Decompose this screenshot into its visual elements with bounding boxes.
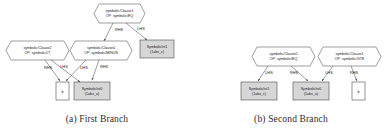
node-label-line2: (1abs_c) xyxy=(150,50,164,54)
node-label-line1: symbolic/Clause1 xyxy=(335,52,363,56)
node-label-line2: (1abs_a) xyxy=(304,92,318,96)
node-symbolic-clause0[interactable]: symbolic/Clause0 OP: symbolic/MINUS xyxy=(70,41,132,60)
node-symbolic-clause2[interactable]: symbolic/Clause2 OP: symbolic/LT xyxy=(6,41,69,60)
panel-first-branch: RHS LHS RHS LHS LHS RHS symbolic/Clause1… xyxy=(0,0,194,133)
edge-clause0-b xyxy=(66,60,86,81)
node-label-line1: symbolic/Clause2 xyxy=(23,46,51,50)
edge-label-lhs-int0-c2: LHS xyxy=(60,64,68,69)
edge-group xyxy=(258,66,357,81)
node-variable-b[interactable]: b xyxy=(56,82,69,100)
node-label-line1: SymbolicInt0 xyxy=(82,87,103,91)
panel-second-branch: LHS RHS LHS RHS symbolic/Clause0 OP: sym… xyxy=(194,0,388,133)
edge-label-lhs-int0: LHS xyxy=(325,70,333,75)
node-label-line1: SymbolicInt1 xyxy=(147,45,168,49)
node-symbolic-clause1[interactable]: symbolic/Clause1 OP: symbolic/GTE xyxy=(318,47,381,66)
edge-clause0-int0 xyxy=(92,60,99,80)
node-label-line1: b xyxy=(358,90,360,94)
figure-container: RHS LHS RHS LHS LHS RHS symbolic/Clause1… xyxy=(0,0,388,133)
edge-clause2-b xyxy=(45,60,60,81)
graph-first-branch: RHS LHS RHS LHS LHS RHS symbolic/Clause1… xyxy=(0,0,194,112)
edge-label-lhs-int1: LHS xyxy=(137,26,145,31)
node-label-line2: (1abs_a) xyxy=(85,92,99,96)
edge-clause1-clause0 xyxy=(104,23,113,41)
node-label-line1: SymbolicInt0 xyxy=(301,87,322,91)
edge-label-rhs-int0: RHS xyxy=(290,70,299,75)
node-label-line1: symbolic/Clause0 xyxy=(87,46,115,50)
edge-label-lhs-b: LHS xyxy=(80,65,88,70)
edge-label-rhs-b: RHS xyxy=(350,70,359,75)
node-label-line1: symbolic/Clause1 xyxy=(105,9,133,13)
edge-label-rhs-int0: RHS xyxy=(100,64,109,69)
node-label-line1: b xyxy=(62,90,64,94)
node-symbolic-int0[interactable]: SymbolicInt0 (1abs_a) xyxy=(293,82,329,100)
node-label-line2: OP: symbolic/GTE xyxy=(335,57,365,61)
node-variable-b[interactable]: b xyxy=(352,82,365,100)
graph-second-branch: LHS RHS LHS RHS symbolic/Clause0 OP: sym… xyxy=(194,0,388,112)
node-label-line1: SymbolicInt1 xyxy=(249,87,270,91)
node-label-line2: OP: symbolic/MINUS xyxy=(84,51,118,55)
node-symbolic-int0[interactable]: SymbolicInt0 (1abs_a) xyxy=(74,82,110,100)
edge-label-rhs-clause0: RHS xyxy=(115,27,124,32)
node-symbolic-int1[interactable]: SymbolicInt1 (1abs_c) xyxy=(140,40,174,58)
node-label-line2: OP: symbolic/EQ xyxy=(106,14,134,18)
node-symbolic-clause1[interactable]: symbolic/Clause1 OP: symbolic/EQ xyxy=(94,4,145,23)
node-symbolic-clause0[interactable]: symbolic/Clause0 OP: symbolic/EQ xyxy=(252,47,315,66)
node-label-line2: OP: symbolic/LT xyxy=(24,51,51,55)
node-label-line2: OP: symbolic/EQ xyxy=(270,57,298,61)
edge-label-lhs-int1: LHS xyxy=(265,70,273,75)
node-symbolic-int1[interactable]: SymbolicInt1 (1abs_c) xyxy=(241,82,277,100)
edge-label-rhs-b: RHS xyxy=(44,65,53,70)
caption-first-branch: (a) First Branch xyxy=(0,114,194,124)
caption-second-branch: (b) Second Branch xyxy=(194,114,388,124)
node-label-line1: symbolic/Clause0 xyxy=(269,52,297,56)
node-label-line2: (1abs_c) xyxy=(252,92,266,96)
